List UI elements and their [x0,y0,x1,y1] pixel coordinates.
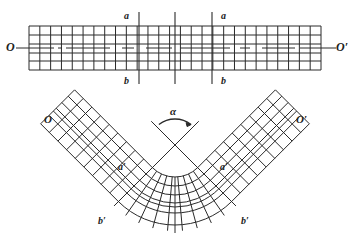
arm-cross-line [58,107,92,141]
arm-cross-line [224,142,258,176]
grid-radial-line [168,177,173,231]
arm-longitudinal-line [53,111,131,189]
arm-longitudinal-line [216,108,294,186]
label-o-prime-bent: O′ [296,114,307,125]
arm-cross-line [249,116,283,150]
arm-cross-line [49,98,83,132]
alpha-arrowhead-icon [186,123,191,127]
arm-longitudinal-line [68,96,146,174]
arm-longitudinal-line [198,90,276,168]
grid-radial-line [178,177,183,231]
arm-cross-line [258,107,292,141]
arm-cross-line [67,116,101,150]
label-a-left: a [124,11,129,21]
beam-boundary-arc [152,168,197,177]
label-o-prime-straight: O′ [336,41,348,53]
arm-cross-line [110,159,144,193]
label-a-prime-right: a′ [220,162,228,172]
arm-longitudinal-line [75,90,153,168]
label-a-right: a [221,11,226,21]
arm-cross-line [241,124,275,158]
label-b-prime-right: b′ [241,216,249,226]
arm-longitudinal-line [49,115,127,193]
arm-longitudinal-line [223,115,301,193]
arm-longitudinal-line [204,96,282,174]
label-b-prime-left: b′ [98,216,106,226]
label-alpha: α [170,106,176,117]
arm-longitudinal-line [219,111,297,189]
arm-longitudinal-line [232,124,310,202]
label-a-prime-left: a′ [118,162,126,172]
arm-cross-line [84,133,118,167]
straight-beam-figure [16,12,336,84]
label-b-left: b [124,76,129,86]
label-o-bent: O [44,114,52,125]
label-b-right: b [221,76,226,86]
arm-cross-line [75,124,109,158]
arm-cross-line [232,133,266,167]
label-o-straight: O [6,41,15,53]
beam-bending-diagram: O O′ a b a b O O′ a′ a′ b′ b′ α [0,0,351,233]
arm-longitudinal-line [56,108,134,186]
section-line-deformed [114,121,199,206]
arm-longitudinal-line [62,103,140,181]
